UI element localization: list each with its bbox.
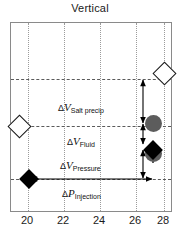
annotation-label-fluid: ΔVFluid	[67, 135, 95, 147]
page-title: Vertical	[0, 2, 180, 14]
annotation-label-salt-precip: ΔVSalt precip	[58, 101, 104, 113]
annotation-label-pressure: ΔVPressure	[60, 159, 101, 171]
annotation-label-injection: ΔPInjection	[62, 187, 101, 199]
xtick-label-26: 26	[123, 214, 147, 226]
xtick-label-28: 28	[151, 214, 175, 226]
subscript-salt-precip: Salt precip	[71, 107, 104, 114]
subscript-fluid: Fluid	[80, 141, 95, 148]
variable-symbol-salt-precip: V	[64, 101, 71, 113]
variable-symbol-fluid: V	[73, 135, 80, 147]
xtick-label-22: 22	[51, 214, 75, 226]
xtick-label-20: 20	[15, 214, 39, 226]
data-point-circle-upper	[145, 115, 162, 132]
xtick-label-24: 24	[87, 214, 111, 226]
subscript-injection: Injection	[75, 193, 101, 200]
chart-figure: Vertical	[0, 0, 180, 238]
subscript-pressure: Pressure	[73, 165, 101, 172]
variable-symbol-injection: P	[68, 187, 75, 199]
plot-area: ΔVSalt precip ΔVFluid ΔVPressure ΔPInjec…	[10, 22, 172, 212]
variable-symbol-pressure: V	[66, 159, 73, 171]
